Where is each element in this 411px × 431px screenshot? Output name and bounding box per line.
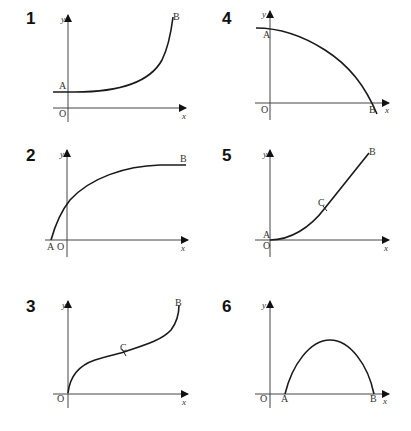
label-B: B — [369, 146, 376, 157]
label-x: x — [384, 105, 389, 115]
label-x: x — [383, 243, 388, 253]
curve-1 — [53, 17, 173, 92]
label-B: B — [180, 153, 187, 164]
label-A: A — [47, 241, 55, 252]
panel-3-graph: C O B x y — [53, 297, 188, 408]
panel-2-graph: A O B x y — [45, 149, 188, 257]
graphs-canvas: A O B x y A O B x y A O B x y C A O B x — [0, 0, 411, 431]
label-x: x — [181, 111, 186, 121]
label-B: B — [369, 104, 376, 115]
label-O: O — [57, 393, 64, 404]
label-y: y — [261, 9, 266, 19]
label-y: y — [261, 300, 266, 310]
label-A: A — [59, 80, 67, 91]
panel-5-graph: C A O B x y — [255, 146, 389, 257]
curve-6 — [285, 340, 374, 394]
label-O: O — [260, 393, 267, 404]
label-C: C — [318, 197, 325, 208]
label-O: O — [263, 240, 270, 251]
label-y: y — [262, 149, 267, 159]
label-C: C — [120, 342, 127, 353]
label-y: y — [59, 149, 64, 159]
label-y: y — [60, 14, 65, 24]
label-x: x — [181, 397, 186, 407]
label-O: O — [59, 108, 66, 119]
curve-2 — [51, 165, 186, 240]
label-B: B — [175, 297, 182, 308]
label-A: A — [263, 229, 271, 240]
panel-6-graph: O A B x y — [255, 300, 389, 408]
panel-1-graph: A O B x y — [53, 11, 186, 122]
label-A: A — [263, 29, 271, 40]
panel-4-graph: A O B x y — [255, 9, 389, 120]
label-O: O — [261, 104, 268, 115]
label-x: x — [382, 396, 387, 406]
label-x: x — [180, 243, 185, 253]
label-O: O — [57, 241, 64, 252]
label-A: A — [281, 393, 289, 404]
curve-4 — [256, 28, 377, 114]
label-y: y — [61, 300, 66, 310]
label-B: B — [173, 11, 180, 22]
label-B: B — [370, 393, 377, 404]
